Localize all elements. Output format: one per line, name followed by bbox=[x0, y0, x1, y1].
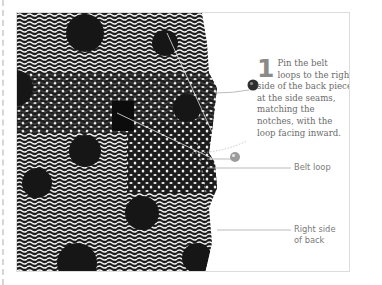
illustration-frame: 1Pin the belt loops to the right side of… bbox=[16, 12, 350, 272]
page-margin-dashed-line bbox=[2, 0, 4, 285]
step-number: 1 bbox=[257, 58, 274, 80]
callout-right-side-of-back: Right side of back bbox=[294, 224, 342, 246]
pin-head-light-icon bbox=[230, 152, 240, 162]
step-instruction: 1Pin the belt loops to the right side of… bbox=[257, 58, 350, 139]
callout-belt-loop: Belt loop bbox=[294, 162, 331, 173]
